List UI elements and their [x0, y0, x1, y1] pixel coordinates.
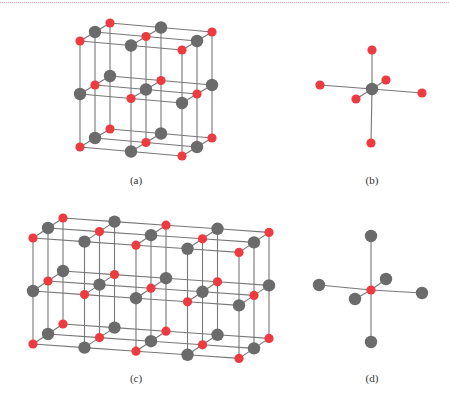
red-atom	[28, 339, 37, 348]
bond-line	[319, 285, 371, 290]
bond-line	[151, 288, 203, 292]
bond-line	[48, 281, 100, 285]
gray-atom	[366, 83, 378, 95]
bond-line	[80, 41, 131, 46]
gray-atom	[313, 279, 325, 291]
red-atom	[366, 138, 375, 147]
gray-atom	[233, 299, 245, 311]
red-atom	[95, 227, 104, 236]
red-atom	[28, 233, 37, 242]
bond-line	[203, 345, 255, 349]
red-atom	[183, 297, 192, 306]
gray-atom	[211, 223, 223, 235]
bond-line	[85, 348, 137, 352]
red-atom	[80, 290, 89, 299]
gray-atom	[74, 88, 86, 100]
bond-line	[136, 351, 188, 355]
bond-line	[95, 138, 146, 143]
red-atom	[207, 27, 216, 36]
bond-line	[218, 229, 270, 233]
gray-atom	[196, 286, 208, 298]
red-atom	[43, 276, 52, 285]
bond-line	[100, 232, 152, 236]
bond-line	[131, 46, 182, 51]
figure-b-octahedral-coordination-gray-center	[315, 45, 426, 147]
caption-c: (c)	[130, 372, 142, 384]
gray-atom	[248, 342, 260, 354]
gray-atom	[27, 285, 39, 297]
red-atom	[131, 347, 140, 356]
red-atom	[177, 151, 186, 160]
bond-line	[136, 245, 188, 249]
gray-atom	[93, 278, 105, 290]
red-atom	[156, 76, 165, 85]
gray-atom	[78, 235, 90, 247]
bond-line	[63, 324, 115, 328]
gray-atom	[108, 215, 120, 227]
red-atom	[417, 88, 426, 97]
bond-line	[100, 285, 152, 289]
gray-atom	[416, 287, 428, 299]
red-atom	[264, 228, 273, 237]
bond-line	[85, 242, 137, 246]
gray-atom	[365, 336, 377, 348]
bond-line	[166, 225, 218, 229]
bond-line	[166, 331, 218, 335]
bond-line	[63, 271, 115, 275]
red-atom	[141, 138, 150, 147]
bond-line	[151, 235, 203, 239]
bond-line	[131, 152, 182, 157]
bond-line	[166, 278, 218, 282]
bond-line	[95, 85, 146, 90]
bond-line	[146, 143, 197, 148]
figure-d-octahedral-coordination-red-center	[313, 230, 428, 348]
red-atom	[207, 133, 216, 142]
gray-atom	[365, 230, 377, 242]
red-atom	[75, 36, 84, 45]
bond-line	[100, 338, 152, 342]
gray-atom	[89, 26, 101, 38]
gray-atom	[206, 79, 218, 91]
bond-line	[188, 302, 240, 306]
red-atom	[146, 284, 155, 293]
red-atom	[75, 142, 84, 151]
gray-atom	[42, 328, 54, 340]
red-atom	[234, 248, 243, 257]
bond-line	[110, 76, 161, 81]
red-atom	[351, 94, 360, 103]
bond-line	[371, 290, 422, 293]
red-atom	[315, 80, 324, 89]
figure-a-rock-salt-lattice	[74, 18, 218, 160]
red-atom	[58, 213, 67, 222]
gray-atom	[191, 35, 203, 47]
red-atom	[110, 270, 119, 279]
gray-atom	[125, 39, 137, 51]
red-atom	[381, 75, 390, 84]
gray-atom	[145, 335, 157, 347]
bond-line	[131, 99, 182, 104]
red-atom	[161, 221, 170, 230]
gray-atom	[42, 222, 54, 234]
bond-line	[33, 238, 85, 242]
gray-atom	[181, 243, 193, 255]
bond-line	[48, 334, 100, 338]
bond-line	[136, 298, 188, 302]
red-atom	[367, 45, 376, 54]
figure-c-rock-salt-lattice-extended	[27, 213, 275, 363]
red-atom	[234, 354, 243, 363]
red-atom	[90, 80, 99, 89]
bond-line	[80, 147, 131, 152]
red-atom	[366, 285, 375, 294]
bond-line	[151, 341, 203, 345]
gray-atom	[248, 236, 260, 248]
bond-line	[161, 28, 212, 33]
bond-line	[80, 94, 131, 99]
bond-line	[110, 23, 161, 28]
red-atom	[105, 124, 114, 133]
gray-atom	[78, 341, 90, 353]
gray-atom	[89, 132, 101, 144]
bond-line	[115, 222, 167, 226]
gray-atom	[176, 97, 188, 109]
gray-atom	[57, 265, 69, 277]
bond-line	[203, 292, 255, 296]
